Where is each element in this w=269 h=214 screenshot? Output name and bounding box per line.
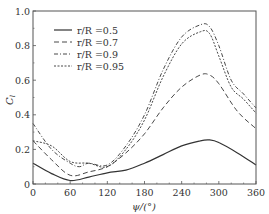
y-tick-label: 1.0 (15, 6, 30, 17)
series-line-3 (33, 30, 256, 167)
x-axis-label: ψ/(°) (132, 201, 156, 212)
legend-label: r/R =0.95 (77, 61, 124, 72)
x-tick-label: 360 (247, 187, 265, 198)
y-tick-label: 0.6 (15, 75, 30, 86)
x-tick-label: 300 (210, 187, 228, 198)
plot-lines (33, 24, 256, 181)
y-tick-label: 0.2 (15, 144, 30, 155)
series-line-0 (33, 140, 256, 181)
y-tick-label: 0.8 (15, 40, 30, 51)
y-axis-label: Cl (4, 95, 17, 105)
y-tick-label: 0 (24, 179, 30, 190)
legend-label: r/R =0.7 (77, 37, 118, 48)
axis-ticks: 06012018024030036000.20.40.60.81.0 (15, 6, 265, 199)
y-tick-label: 0.4 (15, 109, 30, 120)
legend-item: r/R =0.95 (54, 61, 124, 72)
legend-item: r/R =0.9 (54, 49, 118, 60)
series-line-1 (33, 74, 256, 176)
plot-frame (33, 11, 256, 184)
x-tick-label: 60 (64, 187, 76, 198)
x-tick-label: 120 (98, 187, 116, 198)
series-line-2 (33, 24, 256, 167)
legend-label: r/R =0.9 (77, 49, 118, 60)
legend-label: r/R =0.5 (77, 25, 118, 36)
legend: r/R =0.5r/R =0.7r/R =0.9r/R =0.95 (54, 25, 124, 72)
legend-item: r/R =0.7 (54, 37, 118, 48)
x-tick-label: 240 (173, 187, 191, 198)
x-tick-label: 0 (30, 187, 36, 198)
x-tick-label: 180 (135, 187, 153, 198)
line-chart: 06012018024030036000.20.40.60.81.0 r/R =… (0, 0, 269, 214)
legend-item: r/R =0.5 (54, 25, 118, 36)
